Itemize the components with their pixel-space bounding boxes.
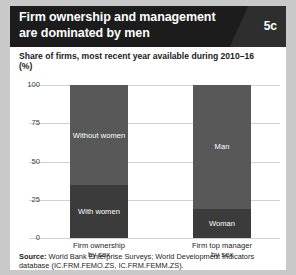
category-label-line: Firm ownership	[49, 241, 149, 250]
figure-card: Firm ownership and management are domina…	[10, 6, 286, 270]
chart-subtitle: Share of firms, most recent year availab…	[19, 51, 269, 71]
figure-header-banner: Firm ownership and management are domina…	[10, 6, 286, 47]
bar-segment-label: Man	[215, 142, 230, 151]
title-line-2: are dominated by men	[19, 26, 234, 42]
y-axis-tick-label: 25	[10, 196, 40, 204]
subtitle-line-1: Share of firms, most recent year availab…	[19, 51, 269, 61]
source-text: World Bank Enterprise Surveys; World Dev…	[19, 252, 254, 270]
y-axis-tick-label: 100	[10, 81, 40, 89]
y-axis-tick-label: 75	[10, 119, 40, 127]
chart-plot-area: 0255075100With womenWithout womenFirm ow…	[10, 73, 286, 248]
figure-number-badge: 5c	[264, 19, 277, 33]
stacked-bar[interactable]: With womenWithout women	[70, 85, 128, 238]
y-axis-tick-label: 50	[10, 158, 40, 166]
category-label-line: Firm top manager	[172, 241, 272, 250]
y-axis-tick-label: 0	[10, 234, 40, 242]
gridline	[29, 238, 280, 239]
bar-segment[interactable]: Man	[193, 85, 251, 209]
source-label: Source:	[19, 252, 47, 261]
bar-segment-label: Woman	[209, 219, 235, 228]
bar-segment[interactable]: With women	[70, 185, 128, 238]
bar-segment[interactable]: Without women	[70, 85, 128, 185]
title-line-1: Firm ownership and management	[19, 10, 234, 26]
source-note: Source: World Bank Enterprise Surveys; W…	[19, 252, 277, 270]
subtitle-line-2: (%)	[19, 61, 269, 71]
bar-segment-label: With women	[78, 207, 120, 216]
bar-segment-label: Without women	[73, 131, 125, 140]
figure-number-wedge	[230, 6, 286, 47]
stacked-bar[interactable]: WomanMan	[193, 85, 251, 238]
bar-segment[interactable]: Woman	[193, 209, 251, 238]
page-title: Firm ownership and management are domina…	[19, 10, 234, 41]
